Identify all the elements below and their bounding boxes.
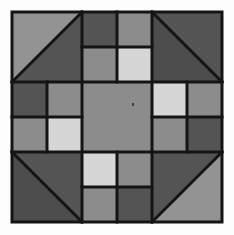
square-patch [82, 152, 117, 187]
square-patch [187, 117, 222, 152]
square-patch [82, 187, 117, 222]
square-patch [47, 82, 82, 117]
square-patch [117, 187, 152, 222]
square-patch [12, 117, 47, 152]
square-patch [117, 47, 152, 82]
square-patch [82, 47, 117, 82]
square-patch [152, 117, 187, 152]
center-square [82, 82, 152, 152]
square-patch [152, 82, 187, 117]
square-patch [117, 12, 152, 47]
quilt-block [0, 0, 234, 235]
square-patch [82, 12, 117, 47]
center-patch [82, 82, 152, 152]
square-patch [187, 82, 222, 117]
speck [132, 103, 134, 106]
square-patch [12, 82, 47, 117]
square-patch [117, 152, 152, 187]
square-patch [47, 117, 82, 152]
